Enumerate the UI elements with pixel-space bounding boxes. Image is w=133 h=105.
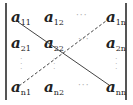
anti-diagonal-dashed	[19, 21, 106, 86]
diagonal-lines	[0, 0, 133, 105]
main-diagonal-solid	[18, 22, 109, 85]
